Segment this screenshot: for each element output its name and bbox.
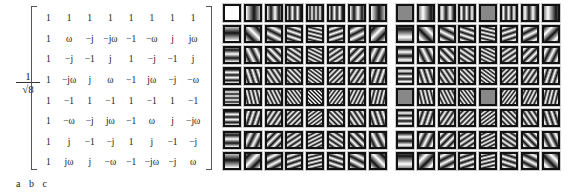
basis-real-tile bbox=[327, 152, 345, 170]
matrix-row: 1−jωjω−1jω−j−ω bbox=[38, 70, 204, 91]
basis-imag-tile bbox=[417, 152, 435, 170]
basis-imag-tile bbox=[521, 4, 539, 22]
matrix-cell: 1 bbox=[79, 96, 100, 106]
matrix-cell: −j bbox=[162, 75, 183, 85]
basis-imag-tile bbox=[396, 109, 414, 127]
basis-real-tile bbox=[348, 67, 366, 85]
basis-imag-tile bbox=[479, 25, 497, 43]
basis-imag-tile bbox=[396, 25, 414, 43]
matrix-cell: j bbox=[79, 75, 100, 85]
basis-real-tile bbox=[285, 67, 303, 85]
basis-real-tile bbox=[306, 25, 324, 43]
basis-imag-tile bbox=[458, 109, 476, 127]
matrix-cell: ω bbox=[141, 116, 162, 126]
matrix-cell: j bbox=[100, 54, 121, 64]
basis-imag-tile bbox=[396, 4, 414, 22]
basis-real-tile bbox=[223, 88, 241, 106]
basis-real-tile bbox=[348, 152, 366, 170]
matrix-cell: jω bbox=[183, 34, 204, 44]
matrix-right-bracket bbox=[206, 6, 212, 170]
matrix-cell: −ω bbox=[100, 157, 121, 167]
matrix-cell: 1 bbox=[183, 13, 204, 23]
matrix-cell: −jω bbox=[100, 34, 121, 44]
basis-imag-tile bbox=[542, 46, 560, 64]
basis-imag-tile bbox=[542, 67, 560, 85]
matrix-cell: −j bbox=[100, 137, 121, 147]
matrix-cell: 1 bbox=[79, 13, 100, 23]
basis-imag-tile bbox=[438, 4, 456, 22]
matrix-cell: −j bbox=[162, 157, 183, 167]
basis-imag-tile bbox=[438, 88, 456, 106]
basis-real-tile bbox=[285, 4, 303, 22]
basis-real-tile bbox=[306, 152, 324, 170]
basis-real-tile bbox=[306, 67, 324, 85]
basis-real-tile bbox=[223, 152, 241, 170]
basis-real-tile bbox=[348, 4, 366, 22]
matrix-cell: 1 bbox=[162, 13, 183, 23]
basis-real-tile bbox=[306, 109, 324, 127]
matrix-cell: 1 bbox=[38, 34, 59, 44]
matrix-cell: −j bbox=[141, 54, 162, 64]
matrix-row: 1ω−j−jω−1−ωjjω bbox=[38, 29, 204, 50]
basis-real-tile bbox=[265, 88, 283, 106]
matrix-cell: ω bbox=[59, 34, 80, 44]
basis-imag-tile bbox=[479, 109, 497, 127]
basis-real-tile bbox=[223, 4, 241, 22]
matrix-cell: ω bbox=[183, 157, 204, 167]
basis-real-tile bbox=[369, 25, 387, 43]
basis-real-tile bbox=[306, 46, 324, 64]
matrix-cell: −1 bbox=[79, 137, 100, 147]
basis-real-tile bbox=[369, 131, 387, 149]
basis-imag-tile bbox=[479, 46, 497, 64]
basis-imag-tile bbox=[417, 88, 435, 106]
matrix-cell: 1 bbox=[100, 13, 121, 23]
basis-real-tile bbox=[369, 152, 387, 170]
basis-real-tile bbox=[244, 88, 262, 106]
matrix-cell: 1 bbox=[38, 116, 59, 126]
matrix-cell: 1 bbox=[38, 75, 59, 85]
basis-imag-tile bbox=[500, 88, 518, 106]
basis-real-tile bbox=[244, 25, 262, 43]
basis-real-tile bbox=[285, 88, 303, 106]
basis-imag-tile bbox=[521, 88, 539, 106]
basis-imag-tile bbox=[458, 46, 476, 64]
matrix-cell: −j bbox=[79, 116, 100, 126]
matrix-cell: −j bbox=[79, 34, 100, 44]
matrix-cell: −ω bbox=[141, 34, 162, 44]
basis-imag-tile bbox=[542, 109, 560, 127]
basis-imag-tile bbox=[438, 131, 456, 149]
matrix-cell: −1 bbox=[121, 75, 142, 85]
matrix-left-bracket bbox=[31, 6, 37, 170]
matrix-cell: −j bbox=[59, 54, 80, 64]
basis-real-tile bbox=[244, 109, 262, 127]
basis-imag-tile bbox=[542, 152, 560, 170]
basis-real-tile bbox=[265, 46, 283, 64]
matrix-row: 1−ω−jjω−1ωj−jω bbox=[38, 111, 204, 132]
basis-imag-tile bbox=[500, 109, 518, 127]
basis-imag-tile bbox=[479, 67, 497, 85]
basis-imag-tile bbox=[521, 131, 539, 149]
basis-imag-tile bbox=[417, 131, 435, 149]
basis-imag-tile bbox=[438, 152, 456, 170]
basis-imag-tile bbox=[521, 67, 539, 85]
basis-real-tile bbox=[265, 67, 283, 85]
matrix-cell: −1 bbox=[121, 116, 142, 126]
matrix-cell: 1 bbox=[121, 13, 142, 23]
matrix-cell: −j bbox=[183, 137, 204, 147]
basis-grid-imag bbox=[396, 4, 560, 170]
basis-real-tile bbox=[265, 109, 283, 127]
basis-imag-tile bbox=[500, 67, 518, 85]
basis-real-tile bbox=[369, 67, 387, 85]
matrix-cell: 1 bbox=[121, 54, 142, 64]
matrix-cell: 1 bbox=[38, 137, 59, 147]
basis-imag-tile bbox=[396, 131, 414, 149]
basis-imag-tile bbox=[438, 46, 456, 64]
basis-imag-tile bbox=[438, 109, 456, 127]
basis-imag-tile bbox=[479, 152, 497, 170]
matrix-cell: 1 bbox=[121, 96, 142, 106]
matrix-row: 1j−1−j1j−1−j bbox=[38, 132, 204, 153]
matrix-row: 1−j−1j1−j−1j bbox=[38, 49, 204, 70]
matrix-cell: −1 bbox=[162, 54, 183, 64]
basis-real-tile bbox=[348, 25, 366, 43]
basis-imag-tile bbox=[438, 67, 456, 85]
